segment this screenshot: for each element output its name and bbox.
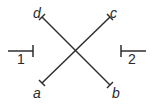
label-seg1: 1: [17, 51, 25, 67]
label-c: c: [110, 5, 117, 21]
label-b: b: [112, 85, 120, 101]
diagram-canvas: d c a b 1 2: [0, 0, 154, 108]
label-seg2: 2: [128, 51, 136, 67]
label-a: a: [33, 85, 41, 101]
label-d: d: [33, 5, 42, 21]
